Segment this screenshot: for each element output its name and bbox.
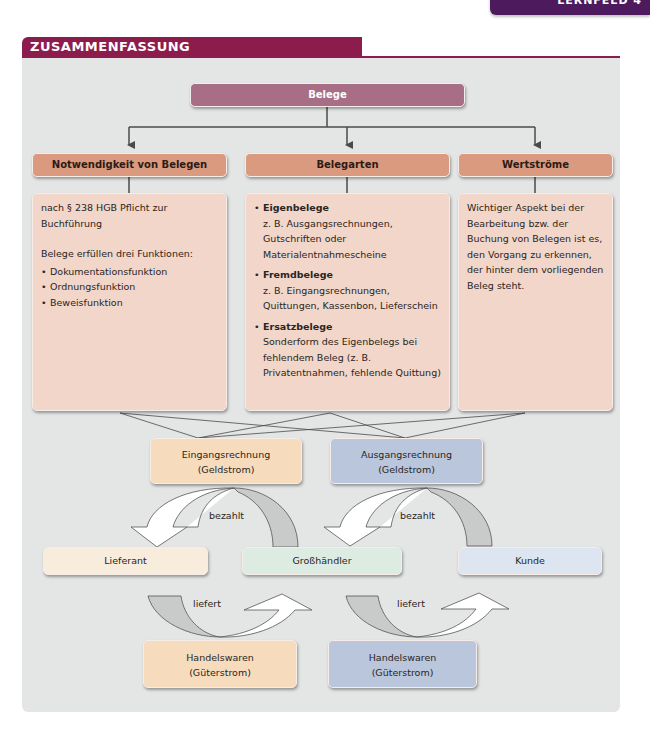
paid-label-left: bezahlt [209, 510, 244, 521]
goods-box-incoming: Handelswaren (Güterstrom) [143, 640, 297, 688]
function-item: Dokumentationsfunktion [41, 264, 218, 280]
category-header-value-flows: Wertströme [458, 153, 613, 177]
paid-label-right: bezahlt [400, 510, 435, 521]
goods-label: Handelswaren [329, 650, 476, 665]
delivered-arrow-left [148, 594, 312, 637]
document-type-item: Fremdbelege z. B. Eingangsrechnungen, Qu… [254, 267, 441, 314]
incoming-invoice-label: Eingangsrechnung [151, 447, 301, 462]
outgoing-invoice-label: Ausgangsrechnung [331, 447, 482, 462]
category-header-necessity: Notwendigkeit von Belegen [32, 153, 227, 177]
document-type-item: Eigenbelege z. B. Ausgangsrechnungen, Gu… [254, 200, 441, 262]
incoming-invoice-sublabel: (Geldstrom) [151, 462, 301, 477]
document-type-item: Ersatzbelege Sonderform des Eigenbelegs … [254, 319, 441, 381]
necessity-intro: nach § 238 HGB Pflicht zur Buchführung [41, 200, 218, 231]
actor-label: Großhändler [292, 555, 351, 566]
cross-connectors [120, 413, 525, 438]
category-header-document-types: Belegarten [245, 153, 450, 177]
function-list: Dokumentationsfunktion Ordnungsfunktion … [41, 264, 218, 311]
root-box-belege: Belege [190, 83, 465, 107]
necessity-lead: Belege erfüllen drei Funktionen: [41, 246, 218, 262]
category-label: Wertströme [502, 159, 569, 170]
actor-wholesaler: Großhändler [242, 547, 402, 575]
delivered-label-right: liefert [397, 598, 425, 609]
document-type-text: Sonderform des Eigenbelegs bei fehlendem… [263, 336, 441, 378]
root-label: Belege [308, 89, 347, 100]
goods-sublabel: (Güterstrom) [329, 665, 476, 680]
category-label: Notwendigkeit von Belegen [52, 159, 207, 170]
actor-label: Kunde [515, 555, 545, 566]
content-box-value-flows: Wichtiger Aspekt bei der Bearbeitung bzw… [458, 193, 613, 411]
document-type-text: z. B. Ausgangsrechnungen, Gutschriften o… [263, 218, 393, 260]
actor-label: Lieferant [104, 555, 146, 566]
goods-label: Handelswaren [144, 650, 296, 665]
goods-sublabel: (Güterstrom) [144, 665, 296, 680]
goods-box-outgoing: Handelswaren (Güterstrom) [328, 640, 477, 688]
outgoing-invoice-sublabel: (Geldstrom) [331, 462, 482, 477]
document-type-title: Eigenbelege [263, 202, 329, 213]
value-flows-text: Wichtiger Aspekt bei der Bearbeitung bzw… [467, 200, 604, 293]
outgoing-invoice-box: Ausgangsrechnung (Geldstrom) [330, 438, 483, 484]
document-type-list: Eigenbelege z. B. Ausgangsrechnungen, Gu… [254, 200, 441, 381]
content-box-necessity: nach § 238 HGB Pflicht zur Buchführung B… [32, 193, 227, 411]
delivered-label-left: liefert [193, 598, 221, 609]
category-label: Belegarten [316, 159, 378, 170]
delivered-arrow-right [346, 593, 509, 637]
actor-supplier: Lieferant [43, 547, 208, 575]
function-item: Beweisfunktion [41, 295, 218, 311]
content-box-document-types: Eigenbelege z. B. Ausgangsrechnungen, Gu… [245, 193, 450, 411]
document-type-text: z. B. Eingangsrechnungen, Quittungen, Ka… [263, 285, 438, 312]
document-type-title: Ersatzbelege [263, 321, 333, 332]
tree-connectors [129, 107, 535, 193]
actor-customer: Kunde [458, 547, 602, 575]
document-type-title: Fremdbelege [263, 269, 333, 280]
function-item: Ordnungsfunktion [41, 279, 218, 295]
incoming-invoice-box: Eingangsrechnung (Geldstrom) [150, 438, 302, 484]
